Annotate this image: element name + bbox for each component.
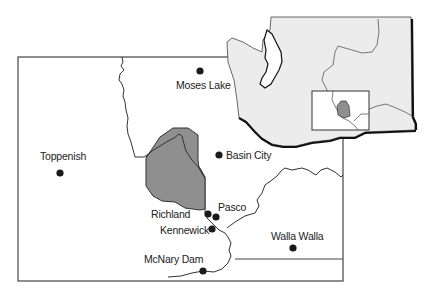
- label-moses-lake: Moses Lake: [176, 79, 231, 91]
- label-toppenish: Toppenish: [40, 150, 86, 162]
- city-dot-walla-walla[interactable]: [289, 244, 296, 251]
- label-basin-city: Basin City: [226, 149, 272, 161]
- label-mcnary-dam: McNary Dam: [144, 253, 204, 265]
- city-dot-moses-lake[interactable]: [196, 67, 203, 74]
- label-walla-walla: Walla Walla: [271, 230, 324, 242]
- city-dot-richland[interactable]: [204, 210, 211, 217]
- washington-inset: [227, 17, 416, 147]
- label-pasco: Pasco: [218, 201, 247, 213]
- city-dot-toppenish[interactable]: [56, 169, 63, 176]
- label-richland: Richland: [151, 208, 191, 220]
- city-dot-pasco[interactable]: [212, 213, 219, 220]
- label-kennewick: Kennewick: [160, 224, 210, 236]
- city-dot-mcnary-dam[interactable]: [199, 267, 206, 274]
- map-canvas: Moses Lake Basin City Toppenish Richland…: [0, 0, 432, 297]
- city-dot-basin-city[interactable]: [215, 151, 222, 158]
- city-dot-kennewick[interactable]: [208, 225, 215, 232]
